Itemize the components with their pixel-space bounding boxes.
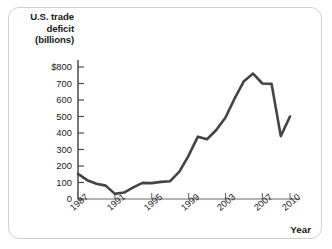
chart-svg xyxy=(0,0,332,249)
y-tick-label: 300 xyxy=(26,145,72,154)
data-line-series-trade-deficit xyxy=(78,74,290,194)
axis-lines xyxy=(78,60,300,199)
y-tick-label: 400 xyxy=(26,128,72,137)
y-tick-label: 700 xyxy=(26,79,72,88)
y-tick-marks xyxy=(78,67,84,199)
y-tick-label: 100 xyxy=(26,178,72,187)
y-tick-label: 200 xyxy=(26,161,72,170)
y-tick-label: 0 xyxy=(26,194,72,203)
y-tick-label: 600 xyxy=(26,95,72,104)
plot-area xyxy=(0,0,332,249)
y-tick-label: $800 xyxy=(26,62,72,71)
chart-figure: U.S. trade deficit (billions) Year $8007… xyxy=(0,0,332,249)
y-tick-label: 500 xyxy=(26,112,72,121)
